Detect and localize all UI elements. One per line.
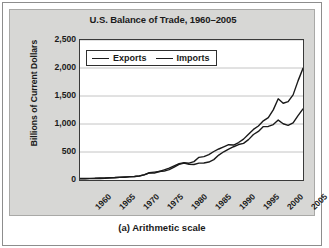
data-line-exports: [80, 109, 303, 179]
x-tick-label: 1985: [213, 191, 233, 211]
legend-entry-exports: Exports: [92, 53, 147, 63]
x-tick-label: 1965: [117, 191, 137, 211]
legend-entry-imports: Imports: [156, 53, 210, 63]
line-swatch-imports-icon: [156, 58, 173, 59]
chart-legend: Exports Imports: [86, 50, 217, 66]
x-tick-label: 1995: [261, 191, 281, 211]
x-tick-label: 1960: [93, 191, 113, 211]
data-line-imports: [80, 68, 303, 178]
x-tick-label: 2000: [285, 191, 305, 211]
line-swatch-exports-icon: [92, 58, 109, 59]
legend-label-exports: Exports: [113, 53, 147, 63]
x-tick-label: 1980: [189, 191, 209, 211]
chart-panel: U.S. Balance of Trade, 1960–2005 Billion…: [9, 9, 315, 216]
legend-label-imports: Imports: [177, 53, 210, 63]
x-tick-label: 1970: [141, 191, 161, 211]
x-tick-label: 1990: [237, 191, 257, 211]
x-tick-label: 1975: [165, 191, 185, 211]
x-tick-label: 2005: [309, 191, 329, 211]
figure-caption: (a) Arithmetic scale: [0, 222, 324, 233]
